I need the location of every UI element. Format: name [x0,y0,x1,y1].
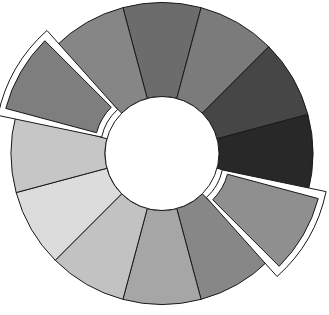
color-wheel [0,0,329,315]
center-hole [105,97,219,211]
